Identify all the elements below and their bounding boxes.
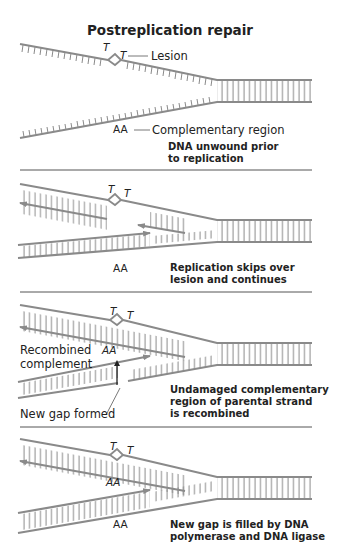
- panel-4-caption: New gap is filled by DNA polymerase and …: [170, 519, 325, 543]
- lesion-label: Lesion: [151, 49, 188, 63]
- complement-bases: AA: [113, 262, 128, 274]
- lesion-base-t1: T: [110, 440, 116, 452]
- lesion-base-t2: T: [120, 49, 126, 61]
- lesion-base-t1: T: [108, 183, 114, 195]
- lesion-base-t1: T: [103, 41, 109, 53]
- lesion-base-t1: T: [110, 305, 116, 317]
- recombined-complement-label: Recombined complement: [20, 343, 92, 371]
- complement-bases: AA: [113, 123, 128, 135]
- lesion-base-t2: T: [124, 187, 130, 199]
- lower-bases: AA: [113, 518, 128, 530]
- recombined-bases: AA: [102, 344, 116, 356]
- panel-2-caption: Replication skips over lesion and contin…: [170, 262, 295, 286]
- complement-label: Complementary region: [152, 123, 285, 137]
- lesion-base-t2: T: [127, 309, 133, 321]
- upper-bases: AA: [106, 476, 120, 488]
- lesion-base-t2: T: [127, 444, 133, 456]
- panel-3-caption: Undamaged complementary region of parent…: [170, 384, 329, 420]
- new-gap-label: New gap formed: [20, 407, 115, 421]
- panel-1-caption: DNA unwound prior to replication: [168, 141, 278, 165]
